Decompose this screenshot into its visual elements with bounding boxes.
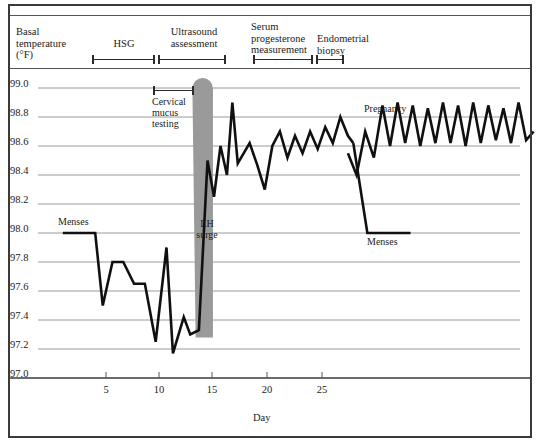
y-tick-label-98-6: 98.6	[10, 136, 28, 147]
menses-drop-line	[353, 143, 410, 233]
y-tick-label-97-2: 97.2	[10, 339, 28, 350]
x-tick-label-5: 5	[94, 384, 118, 395]
x-tick-label-25: 25	[310, 384, 334, 395]
range-spine	[153, 90, 194, 91]
y-tick-label-98-4: 98.4	[10, 165, 28, 176]
y-tick-label-97-0: 97.0	[10, 368, 28, 379]
annotation-cervical-mucus: Cervical mucus testing	[152, 96, 200, 129]
y-tick-label-97-8: 97.8	[10, 252, 28, 263]
x-axis-caption: Day	[253, 412, 271, 423]
annotation-menses-early: Menses	[58, 216, 89, 227]
cervical-mucus-bar	[153, 86, 194, 95]
y-tick-label-99-0: 99.0	[10, 78, 28, 89]
frame-left-rule	[8, 4, 10, 438]
x-tick-label-20: 20	[255, 384, 279, 395]
y-tick-label-98-8: 98.8	[10, 107, 28, 118]
range-cap-right	[192, 86, 194, 95]
x-tick-label-15: 15	[200, 384, 224, 395]
annotation-pregnancy: Pregnancy	[364, 103, 406, 114]
annotation-menses-late: Menses	[367, 236, 398, 247]
x-axis-ticks	[106, 372, 322, 378]
frame-bottom-rule	[8, 436, 532, 438]
y-tick-label-97-6: 97.6	[10, 281, 28, 292]
annotation-lh-surge: LH surge	[191, 218, 223, 240]
frame-right-rule	[530, 4, 532, 438]
y-tick-label-98-2: 98.2	[10, 194, 28, 205]
y-tick-label-97-4: 97.4	[10, 310, 28, 321]
y-tick-label-98-0: 98.0	[10, 223, 28, 234]
chart-page: Basal temperature (°F) HSG Ultrasound as…	[0, 0, 540, 442]
x-tick-label-10: 10	[147, 384, 171, 395]
